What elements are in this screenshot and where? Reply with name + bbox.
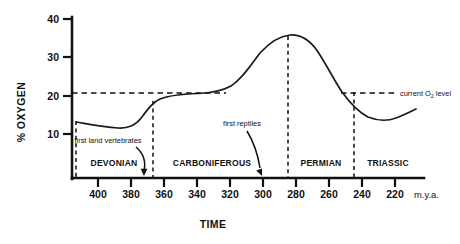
x-tick-label-280: 280 bbox=[287, 188, 305, 200]
x-tick-label-320: 320 bbox=[221, 188, 239, 200]
first-reptiles-arrowhead bbox=[256, 168, 262, 176]
period-label-permian: PERMIAN bbox=[300, 158, 341, 168]
y-axis: 40 30 20 10 bbox=[47, 13, 72, 179]
period-labels: DEVONIAN CARBONIFEROUS PERMIAN TRIASSIC bbox=[91, 158, 409, 168]
chart-svg: 40 30 20 10 % OXYGEN 400 380 360 340 320… bbox=[0, 0, 460, 244]
y-tick-label-10: 10 bbox=[47, 128, 59, 140]
y-tick-label-30: 30 bbox=[47, 51, 59, 63]
period-label-devonian: DEVONIAN bbox=[91, 158, 138, 168]
x-axis-unit-label: m.y.a. bbox=[414, 189, 439, 200]
current-o2-level-label: current O2 level bbox=[400, 89, 451, 99]
first-land-vertebrates-arrowhead bbox=[141, 169, 148, 176]
x-axis-label: TIME bbox=[200, 218, 227, 230]
annotation-first-land-vertebrates: first land vertebrates bbox=[75, 136, 148, 176]
y-axis-label: % OXYGEN bbox=[15, 82, 27, 142]
x-tick-label-220: 220 bbox=[386, 188, 404, 200]
current-o2-level-label-text: current O bbox=[400, 89, 431, 98]
period-boundary-markers bbox=[76, 36, 354, 178]
current-o2-level-label-tail: level bbox=[434, 89, 452, 98]
y-tick-label-20: 20 bbox=[47, 90, 59, 102]
current-o2-reference-line: current O2 level bbox=[72, 89, 451, 99]
oxygen-vs-time-chart: 40 30 20 10 % OXYGEN 400 380 360 340 320… bbox=[0, 0, 460, 244]
period-label-triassic: TRIASSIC bbox=[367, 158, 409, 168]
x-tick-label-300: 300 bbox=[254, 188, 272, 200]
oxygen-curve bbox=[76, 35, 416, 128]
x-tick-label-340: 340 bbox=[188, 188, 206, 200]
x-tick-label-360: 360 bbox=[155, 188, 173, 200]
y-axis-title: % OXYGEN bbox=[15, 82, 27, 142]
first-reptiles-label: first reptiles bbox=[223, 119, 261, 128]
x-tick-label-400: 400 bbox=[89, 188, 107, 200]
period-label-carboniferous: CARBONIFEROUS bbox=[173, 158, 252, 168]
first-land-vertebrates-label: first land vertebrates bbox=[75, 136, 142, 145]
x-axis: 400 380 360 340 320 300 280 260 240 220 … bbox=[72, 178, 439, 230]
x-tick-label-260: 260 bbox=[320, 188, 338, 200]
x-tick-label-240: 240 bbox=[353, 188, 371, 200]
x-tick-label-380: 380 bbox=[122, 188, 140, 200]
y-tick-label-40: 40 bbox=[47, 13, 59, 25]
